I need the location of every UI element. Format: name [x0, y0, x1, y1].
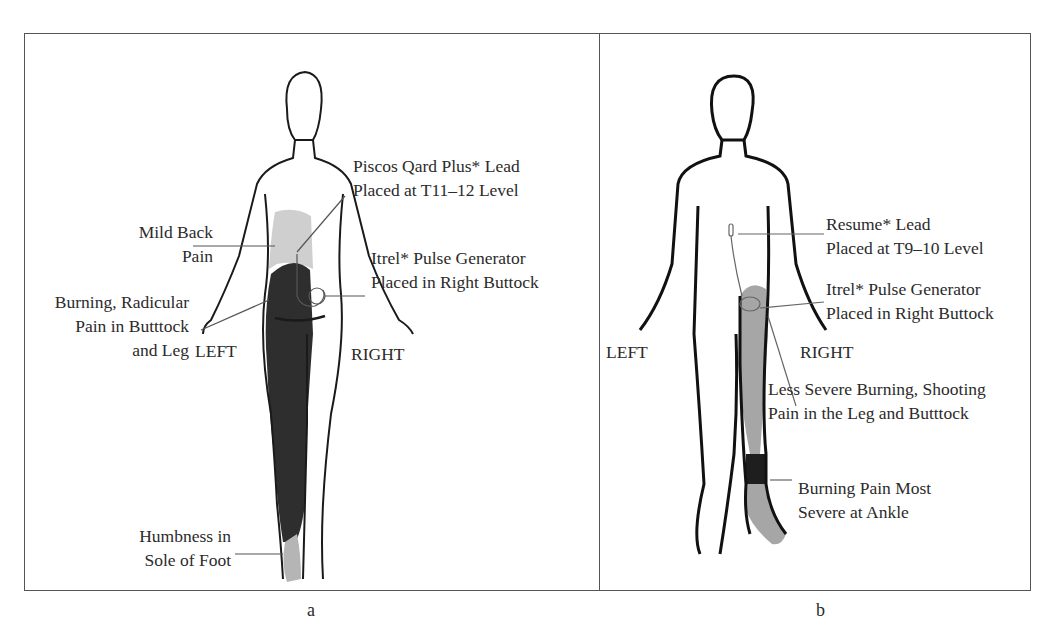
- mild-back-pain-label: Mild Back Pain: [125, 220, 213, 268]
- lead-electrode: [729, 224, 733, 236]
- left-side-label-b: LEFT: [606, 340, 648, 364]
- panel-b: Resume* Lead Placed at T9–10 Level Itrel…: [599, 33, 1031, 591]
- head-outline: [711, 76, 753, 140]
- right-side-label-a: RIGHT: [351, 342, 404, 366]
- right-side-label-b: RIGHT: [800, 340, 853, 364]
- mild-back-pain-region: [269, 210, 313, 269]
- generator-label-b: Itrel* Pulse Generator Placed in Right B…: [826, 277, 994, 325]
- left-side-label-a: LEFT: [195, 339, 237, 363]
- less-severe-pain-label: Less Severe Burning, Shooting Pain in th…: [768, 377, 986, 425]
- caption-b: b: [816, 600, 825, 621]
- lead-wire-b: [731, 236, 742, 296]
- ankle-pain-label: Burning Pain Most Severe at Ankle: [798, 476, 931, 524]
- panel-a: Piscos Qard Plus* Lead Placed at T11–12 …: [24, 33, 600, 591]
- caption-a: a: [307, 600, 315, 621]
- ankle-severe-pain-region: [746, 454, 766, 484]
- pulse-generator: [309, 288, 325, 304]
- foot-pain-region: [744, 484, 786, 544]
- numbness-label: Humbness in Sole of Foot: [125, 524, 231, 572]
- lead-label-b: Resume* Lead Placed at T9–10 Level: [826, 212, 984, 260]
- head-outline: [286, 72, 321, 140]
- radicular-pain-label: Burning, Radicular Pain in Butttock and …: [29, 290, 189, 362]
- generator-label-a: Itrel* Pulse Generator Placed in Right B…: [371, 246, 539, 294]
- lead-label-a: Piscos Qard Plus* Lead Placed at T11–12 …: [353, 154, 520, 202]
